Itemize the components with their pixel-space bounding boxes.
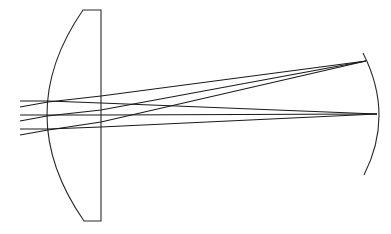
light-ray — [20, 101, 377, 114]
light-ray — [20, 114, 377, 129]
ray-bundle-on-axis — [20, 101, 377, 129]
ray-bundle-off-axis — [20, 61, 366, 135]
light-ray — [20, 114, 377, 115]
optical-diagram — [0, 0, 391, 234]
light-ray — [20, 61, 366, 107]
light-ray — [20, 61, 366, 135]
